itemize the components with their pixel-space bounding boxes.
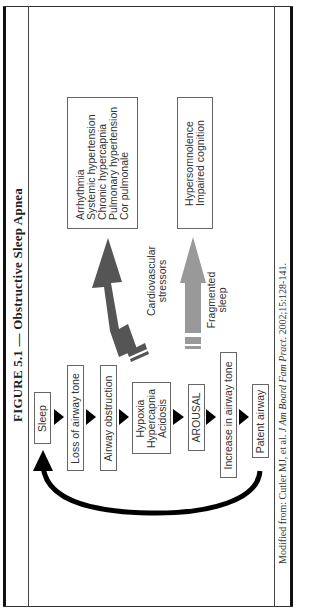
step-hypoxia-hypercapnia-acidosis: Hypoxia Hypercapnia Acidosis [132,382,171,454]
fragmented-sleep-arrow-icon [180,237,206,349]
step-loss-of-airway-tone: Loss of airway tone [67,365,84,471]
cycle-arrowhead-icon [33,450,53,471]
cardiovascular-stressors-label: Cardiovascular stressors [145,243,170,319]
flow-arrow-icon [86,409,96,425]
step-arousal: AROUSAL [188,384,205,451]
flow-arrow-icon [119,409,129,425]
step-patent-airway: Patent airway [252,384,269,458]
flow-arrow-icon [239,409,249,425]
sleep-outcomes-box: Hypersomnolence Impaired cognition [177,97,213,229]
flow-arrow-icon [206,409,216,425]
step-airway-obstruction: Airway obstruction [100,365,117,471]
flow-arrow-icon [173,409,184,425]
cardiovascular-outcomes-box: Arrhythmia Systemic hypertension Chronic… [67,97,138,229]
fragmented-sleep-label: Fragmented sleep [205,268,230,332]
step-increase-in-airway-tone: Increase in airway tone [220,352,237,478]
outcome-item: Impaired cognition [195,120,206,206]
cardiovascular-arrow-icon [92,238,149,362]
outcome-item: Cor pulmonale [119,106,130,219]
flow-arrow-icon [54,409,64,425]
step-sleep: Sleep [34,392,51,444]
